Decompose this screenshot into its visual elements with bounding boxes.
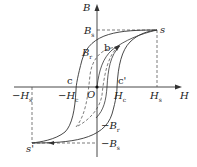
- hysteresis-diagram: [0, 0, 197, 167]
- label-neg-br: −Br: [101, 121, 120, 133]
- b-axis-arrow-icon: [95, 4, 100, 11]
- h-axis-arrow-icon: [175, 85, 182, 90]
- label-hc: Hc: [114, 91, 126, 103]
- major-loop-lower: [32, 30, 157, 143]
- inner-loop: [96, 46, 120, 118]
- label-hs: Hs: [150, 91, 162, 103]
- curve-arrow-icon: [48, 141, 54, 145]
- label-point-c: c: [67, 76, 73, 86]
- label-bs: Bs: [84, 26, 94, 38]
- label-point-s-prime: s': [26, 144, 34, 154]
- axis-label-b: B: [83, 3, 90, 13]
- label-br: Br: [82, 48, 92, 60]
- label-origin: O: [87, 90, 95, 100]
- major-loop-upper: [32, 30, 157, 143]
- label-neg-hc: −Hc: [58, 91, 78, 103]
- initial-magnetization-curve: [97, 30, 157, 87]
- label-point-b: b: [104, 43, 110, 53]
- guide-lines: [32, 30, 157, 143]
- label-neg-bs: −Bs: [101, 139, 120, 151]
- axis-label-h: H: [180, 91, 189, 101]
- label-point-s: s: [160, 25, 165, 35]
- label-neg-hs: −Hs: [12, 91, 32, 103]
- origin-point: [95, 85, 98, 88]
- label-point-c-prime: c': [118, 76, 126, 86]
